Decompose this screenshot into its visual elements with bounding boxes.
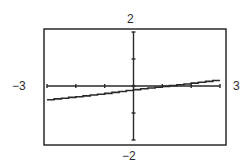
axes	[47, 32, 220, 140]
plot-area	[0, 0, 251, 166]
viewing-window-frame	[44, 29, 226, 145]
